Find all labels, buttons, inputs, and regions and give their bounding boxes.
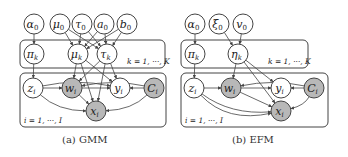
edge-v0-to-etak <box>240 34 242 44</box>
edge-xi0-to-etak <box>224 32 232 45</box>
edges-layer <box>33 29 309 116</box>
plate-label: k = 1, ···, K <box>268 57 311 66</box>
edge-etak-to-wi <box>233 64 236 78</box>
node-efm-alpha0: α0 <box>185 14 205 34</box>
plate-label: i = 1, ···, I <box>185 116 224 125</box>
caption-gmm: (a) GMM <box>62 134 107 145</box>
node-efm-etak: ηk <box>228 44 248 64</box>
node-efm-wi: wi <box>221 78 241 98</box>
node-gmm-muk: μk <box>68 44 88 64</box>
node-gmm-a0: a0 <box>94 14 114 34</box>
edge-b0-to-tauk <box>113 32 122 45</box>
node-gmm-xi: xi <box>86 101 106 121</box>
edge-mu0-to-muk <box>65 33 73 46</box>
node-gmm-wi: wi <box>62 78 82 98</box>
plate-label: i = 1, ···, I <box>24 116 63 125</box>
node-efm-pik: πk <box>185 44 205 64</box>
edge-Ci-to-xi <box>106 95 147 111</box>
node-gmm-zi: zi <box>23 78 43 98</box>
graphical-model-figure: k = 1, ···, Ki = 1, ···, Ik = 1, ···, Ki… <box>0 0 348 157</box>
edge-wi-to-xi <box>240 92 272 107</box>
edge-tauk-to-yi <box>111 63 117 78</box>
caption-efm: (b) EFM <box>232 134 274 145</box>
node-efm-zi: zi <box>184 78 204 98</box>
node-gmm-tau0: τ0 <box>72 14 92 34</box>
node-gmm-mu0: μ0 <box>50 14 70 34</box>
edge-muk-to-wi <box>74 64 77 78</box>
node-gmm-pik: πk <box>24 44 44 64</box>
node-efm-v0: v0 <box>233 14 253 34</box>
edge-tau0-to-muk <box>79 34 80 44</box>
edge-tauk-to-wi <box>79 61 100 81</box>
node-gmm-Ci: Ci <box>144 78 164 98</box>
node-efm-xi0: ξ0 <box>209 14 229 34</box>
node-gmm-alpha0: α0 <box>24 14 44 34</box>
edge-zi-to-xi <box>40 95 86 111</box>
node-efm-Ci: Ci <box>304 78 324 98</box>
plate-label: k = 1, ···, K <box>127 57 170 66</box>
node-gmm-yi: yi <box>110 78 130 98</box>
plate-efm-I: i = 1, ···, I <box>181 73 328 127</box>
edge-Ci-to-xi <box>291 97 309 109</box>
node-gmm-tauk: τk <box>97 44 117 64</box>
edge-a0-to-tauk <box>105 34 106 44</box>
node-efm-xi: xi <box>271 101 291 121</box>
node-gmm-b0: b0 <box>117 14 137 34</box>
node-efm-yi: yi <box>271 78 291 98</box>
edge-wi-to-xi <box>79 95 89 104</box>
